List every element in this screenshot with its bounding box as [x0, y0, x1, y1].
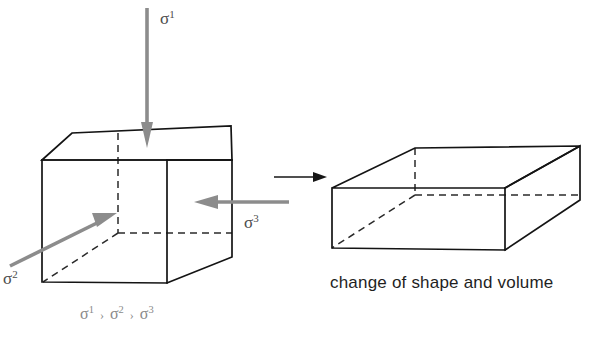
cube-top-face [42, 126, 232, 160]
deformed-box-hidden-edges [332, 148, 580, 248]
stress-deformation-diagram: σ1 σ2 σ3 σ1›σ2›σ3 [0, 0, 611, 343]
sigma3-arrow [194, 195, 289, 209]
sigma3-label: σ3 [244, 212, 259, 232]
deformed-box [332, 146, 580, 250]
cube-hidden-edges [43, 133, 232, 282]
sigma2-arrow-shaft [10, 220, 103, 266]
deformed-hidden-edge-to-front-left [332, 195, 415, 248]
sigma2-arrow [10, 213, 117, 266]
cube-right-face [167, 160, 232, 283]
sigma1-arrow [141, 8, 153, 148]
stress-relation-label: σ1›σ2›σ3 [80, 304, 154, 322]
deformation-caption: change of shape and volume [330, 273, 554, 292]
deformed-front-face [332, 188, 505, 250]
deformed-right-face [505, 146, 580, 250]
transition-arrow-head [313, 172, 327, 182]
sigma1-arrow-head [141, 122, 153, 148]
transition-arrow [274, 172, 327, 182]
sigma3-arrow-head [194, 195, 218, 209]
sigma2-label: σ2 [3, 268, 18, 288]
sigma1-label: σ1 [160, 8, 175, 28]
cube-hidden-edge-to-front-left [43, 233, 118, 282]
